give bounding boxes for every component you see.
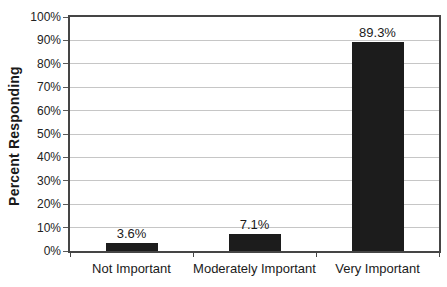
y-tick-mark [63, 134, 68, 135]
y-tick-label: 20% [0, 197, 61, 211]
y-tick-label: 70% [0, 80, 61, 94]
bar [106, 243, 158, 251]
x-tick-mark [316, 253, 317, 257]
y-tick-mark [63, 251, 68, 252]
bar-chart: Percent Responding 0%10%20%30%40%50%60%7… [0, 0, 447, 287]
gridline [70, 40, 439, 41]
y-tick-mark [63, 204, 68, 205]
y-tick-label: 40% [0, 150, 61, 164]
y-tick-label: 50% [0, 127, 61, 141]
y-tick-mark [63, 17, 68, 18]
x-tick-mark [70, 253, 71, 257]
x-tick-mark [439, 253, 440, 257]
y-tick-mark [63, 63, 68, 64]
x-tick-mark [193, 253, 194, 257]
bar [229, 234, 281, 251]
y-tick-mark [63, 87, 68, 88]
y-tick-label: 90% [0, 33, 61, 47]
value-label: 89.3% [338, 25, 418, 40]
y-tick-mark [63, 110, 68, 111]
category-label: Not Important [92, 261, 171, 276]
y-tick-label: 80% [0, 57, 61, 71]
y-tick-label: 0% [0, 244, 61, 258]
y-tick-label: 30% [0, 174, 61, 188]
value-label: 3.6% [92, 226, 172, 241]
y-tick-mark [63, 227, 68, 228]
category-label: Very Important [335, 261, 420, 276]
bar [352, 42, 404, 251]
value-label: 7.1% [215, 217, 295, 232]
y-tick-label: 10% [0, 221, 61, 235]
y-tick-mark [63, 180, 68, 181]
y-tick-label: 60% [0, 104, 61, 118]
y-tick-mark [63, 157, 68, 158]
y-tick-mark [63, 40, 68, 41]
category-label: Moderately Important [193, 261, 316, 276]
y-tick-label: 100% [0, 10, 61, 24]
